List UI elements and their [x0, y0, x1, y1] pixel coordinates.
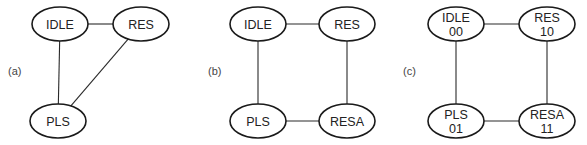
state-name: RESA	[330, 115, 365, 129]
diagram-a: (a)IDLERESPLS	[8, 7, 169, 138]
state-name: RES	[534, 11, 560, 25]
diagram-c: (c)IDLE00RES10PLS01RESA11	[403, 7, 575, 138]
diagram-b: (b)IDLERESPLSRESA	[208, 7, 375, 138]
state-node-pls: PLS01	[428, 104, 484, 138]
state-node-resa: RESA11	[519, 104, 575, 138]
state-code: 11	[541, 122, 554, 136]
state-name: PLS	[246, 115, 270, 129]
state-node-resa: RESA	[319, 104, 375, 138]
state-code: 00	[449, 25, 463, 39]
state-node-res: RES10	[519, 7, 575, 41]
state-name: RESA	[530, 108, 565, 122]
state-name: RES	[128, 18, 154, 32]
state-node-idle: IDLE	[230, 7, 286, 41]
state-code: 01	[449, 122, 463, 136]
state-node-pls: PLS	[30, 104, 86, 138]
state-code: 10	[540, 25, 554, 39]
diagram-label: (c)	[403, 65, 416, 77]
state-node-res: RES	[113, 7, 169, 41]
diagram-label: (a)	[8, 65, 21, 77]
state-name: IDLE	[244, 18, 272, 32]
state-node-idle: IDLE00	[428, 7, 484, 41]
state-name: IDLE	[442, 11, 470, 25]
edge-res-pls	[71, 39, 128, 106]
state-diagram-canvas: (a)IDLERESPLS(b)IDLERESPLSRESA(c)IDLE00R…	[0, 0, 587, 145]
state-name: PLS	[444, 108, 468, 122]
state-name: RES	[334, 18, 360, 32]
diagram-label: (b)	[208, 65, 221, 77]
state-name: PLS	[46, 115, 70, 129]
state-name: IDLE	[46, 18, 74, 32]
state-node-pls: PLS	[230, 104, 286, 138]
state-node-idle: IDLE	[32, 7, 88, 41]
state-node-res: RES	[319, 7, 375, 41]
edge-idle-pls	[58, 41, 59, 104]
